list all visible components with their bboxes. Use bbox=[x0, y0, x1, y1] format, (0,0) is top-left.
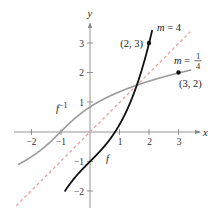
y-axis-label: y bbox=[87, 8, 93, 19]
slope-equals: = bbox=[182, 55, 191, 66]
x-tick-label: 1 bbox=[118, 137, 123, 147]
x-axis-label: x bbox=[202, 127, 208, 138]
slope-m-quarter-label: m = 1 4 bbox=[174, 51, 202, 71]
f-label: f bbox=[106, 153, 111, 164]
x-axis-arrow-icon bbox=[195, 130, 201, 134]
x-tick-label: 2 bbox=[147, 137, 152, 147]
identity-line-y-equals-x bbox=[16, 32, 190, 206]
x-tick-label: −2 bbox=[26, 137, 36, 147]
x-tick-label: 3 bbox=[177, 137, 182, 147]
point-3-2 bbox=[176, 70, 180, 74]
slope-value: = 4 bbox=[165, 22, 182, 33]
y-axis-arrow-icon bbox=[88, 22, 92, 28]
x-tick-label: −1 bbox=[56, 137, 66, 147]
y-tick-label: −1 bbox=[74, 157, 84, 167]
fraction-denominator: 4 bbox=[196, 61, 201, 71]
inverse-function-curve bbox=[18, 70, 191, 165]
point-2-3 bbox=[147, 41, 151, 45]
f-inverse-label: f−1 bbox=[56, 101, 67, 114]
slope-m4-label: m = 4 bbox=[157, 22, 182, 33]
f-inverse-superscript: −1 bbox=[59, 101, 68, 110]
y-tick-label: 1 bbox=[79, 98, 84, 108]
function-inverse-graph: −2 −1 1 2 3 3 2 1 −1 −2 x y (2, 3) (3, 2… bbox=[0, 0, 213, 218]
y-tick-label: 2 bbox=[79, 68, 84, 78]
svg-text:m =: m = bbox=[174, 55, 190, 66]
y-tick-label: −2 bbox=[74, 187, 84, 197]
point-3-2-label: (3, 2) bbox=[179, 78, 202, 90]
fraction-numerator: 1 bbox=[196, 51, 200, 61]
y-tick-label: 3 bbox=[79, 39, 84, 49]
function-f-curve bbox=[65, 30, 153, 192]
point-2-3-label: (2, 3) bbox=[120, 38, 143, 50]
